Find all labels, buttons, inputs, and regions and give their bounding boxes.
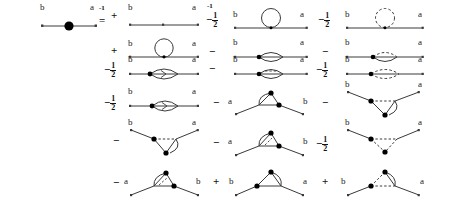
diagram-triangle-solid-slash: [233, 128, 309, 158]
label-a-r5c3: a: [228, 137, 232, 146]
label-a-r2c3: a: [300, 38, 304, 47]
label-b-r6c2: b: [196, 177, 201, 186]
label-a-r1c3: a: [300, 10, 304, 19]
label-b-r1c1: b: [40, 3, 45, 12]
feynman-equation-figure: b a -1 = + b a -1 −12 b a −12: [0, 0, 457, 210]
label-b-r6c3: b: [229, 177, 234, 186]
fraction-one-half: 12: [324, 12, 330, 29]
operator-minus-r4c3: −: [213, 97, 219, 108]
label-b-r2c4: b: [345, 38, 350, 47]
operator-minus-r6c2: −: [113, 177, 119, 188]
label-b-r1c2: b: [128, 3, 133, 12]
diagram-triangle-solid-loop: [233, 88, 309, 118]
diagram-lens-dashed-inner: [233, 63, 309, 83]
label-a-r4c4: a: [418, 80, 422, 89]
operator-plus-r2c2: +: [111, 45, 117, 56]
operator-minus-half-r1c3: −12: [206, 12, 218, 29]
label-a-r1c4: a: [418, 10, 422, 19]
fraction-one-half: 12: [110, 62, 116, 79]
label-a-r4c3: a: [228, 97, 232, 106]
operator-minus-r3c3: −: [209, 63, 215, 74]
diagram-vee-dashed-hook: [128, 126, 204, 160]
operator-plus-r6c4: +: [322, 176, 328, 187]
diagram-vee-solid-hook: [345, 88, 425, 122]
operator-equals: =: [99, 15, 105, 26]
fraction-one-half: 12: [110, 95, 116, 112]
operator-minus-half-r5c4: −12: [316, 136, 328, 153]
label-b-r1c4: b: [345, 10, 350, 19]
label-b-r5c3: b: [303, 137, 308, 146]
label-a-r6c4: a: [420, 177, 424, 186]
label-a-r4c2: a: [192, 87, 196, 96]
diagram-triangle-dashed-slash: [128, 168, 204, 198]
label-b-r4c3: b: [303, 97, 308, 106]
operator-minus-r5c3: −: [213, 137, 219, 148]
diagram-lens-solid-arrow: [128, 63, 200, 83]
operator-minus-r2c3: −: [209, 46, 215, 57]
diagram-free-line-two-dots: [128, 18, 200, 30]
label-a-r2c4: a: [418, 38, 422, 47]
label-a-r3c2: a: [192, 55, 196, 64]
label-b-r6c4: b: [341, 177, 346, 186]
operator-minus-r2c4: −: [322, 46, 328, 57]
operator-minus-r5c2: −: [113, 135, 119, 146]
diagram-tadpole-circle-dashed: [345, 4, 425, 32]
label-a-r6c3: a: [303, 177, 307, 186]
diagram-vee-dashed-double: [345, 126, 425, 160]
operator-minus-r4c4: −: [322, 97, 328, 108]
label-b-r5c4: b: [345, 118, 350, 127]
diagram-triangle-dashed-box: [345, 168, 425, 198]
label-a-r5c2: a: [192, 118, 196, 127]
label-b-r1c3: b: [233, 10, 238, 19]
diagram-tadpole-circle-solid: [233, 4, 309, 32]
sup-minus-one-2: -1: [207, 2, 213, 10]
diagram-lens-solid-arrow-2: [128, 95, 200, 115]
label-b-r5c2: b: [128, 118, 133, 127]
diagram-sunset-circle-solid: [128, 33, 200, 61]
label-a-r1c2: a: [192, 3, 196, 12]
operator-minus-half-r4c2: −12: [104, 95, 116, 112]
label-b-r2c2: b: [128, 39, 133, 48]
operator-minus-half-r3c2: −12: [104, 62, 116, 79]
operator-plus-r1c2: +: [111, 10, 117, 21]
fraction-one-half: 12: [322, 136, 328, 153]
fraction-one-half: 12: [322, 62, 328, 79]
label-a-r3c3: a: [300, 55, 304, 64]
label-a-r1c1: a: [90, 3, 94, 12]
label-a-r5c4: a: [418, 118, 422, 127]
label-a-r2c2: a: [192, 39, 196, 48]
operator-plus-r6c3: +: [213, 176, 219, 187]
label-b-r3c2: b: [128, 55, 133, 64]
label-b-r4c2: b: [128, 87, 133, 96]
label-a-r6c2: a: [124, 177, 128, 186]
label-b-r3c4: b: [345, 55, 350, 64]
label-a-r3c4: a: [418, 55, 422, 64]
operator-minus-half-r3c4: −12: [316, 62, 328, 79]
operator-minus-half-r1c4: −12: [318, 12, 330, 29]
sup-minus-one: -1: [99, 4, 105, 12]
label-b-r2c3: b: [233, 38, 238, 47]
diagram-triangle-solid-box: [233, 168, 309, 198]
label-b-r4c4: b: [345, 80, 350, 89]
diagram-lens-dashed-double: [345, 63, 425, 83]
diagram-bare-propagator-blob: [40, 18, 98, 32]
label-b-r3c3: b: [233, 55, 238, 64]
fraction-one-half: 12: [212, 12, 218, 29]
